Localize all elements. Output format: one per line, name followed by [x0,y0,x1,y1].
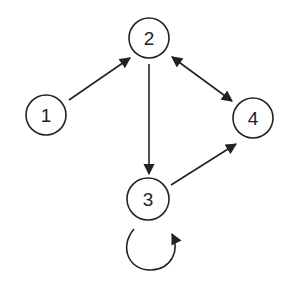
node-2-label: 2 [144,28,155,49]
node-4-label: 4 [248,108,259,129]
edge-1-to-2 [69,58,130,100]
graph-diagram: 1 2 3 4 [0,0,287,286]
node-2: 2 [129,18,169,58]
node-1: 1 [26,95,66,135]
edge-3-to-4 [171,144,236,185]
node-1-label: 1 [41,105,52,126]
edge-2-to-4 [172,57,232,101]
node-3: 3 [127,178,169,220]
edge-3-self-loop [127,229,175,270]
node-4: 4 [233,98,273,138]
node-3-label: 3 [143,189,154,210]
